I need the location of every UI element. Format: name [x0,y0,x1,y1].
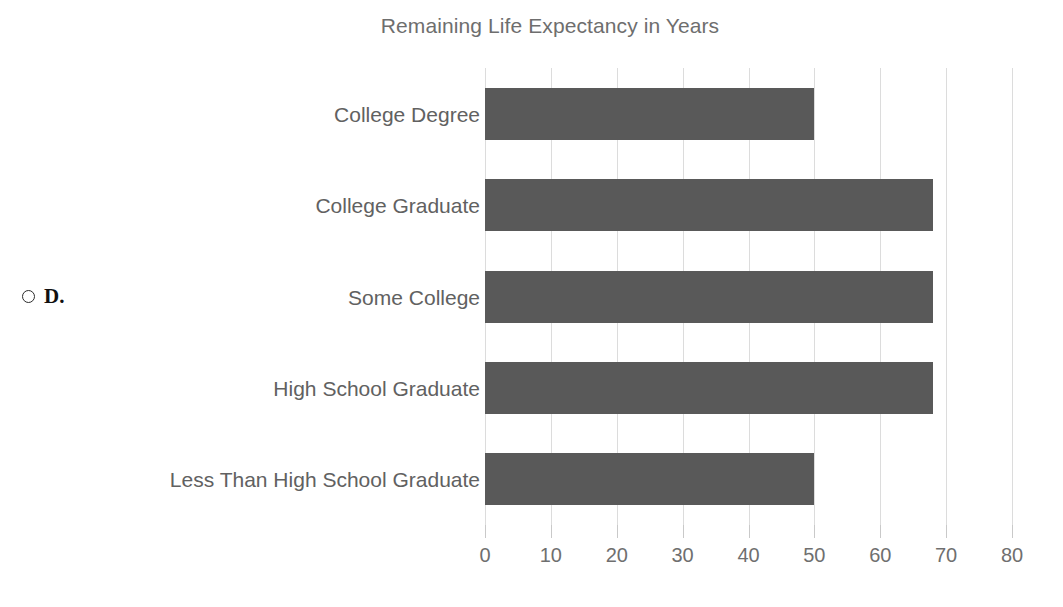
chart-title: Remaining Life Expectancy in Years [300,14,800,38]
x-tick-mark-0 [485,525,486,538]
x-tick-label: 50 [803,545,825,565]
x-tick-label: 40 [737,545,759,565]
bar [485,362,933,414]
gridline-80 [1012,68,1013,525]
radio-unselected-icon[interactable] [22,290,35,303]
x-tick-label: 0 [479,545,490,565]
x-tick-label: 20 [606,545,628,565]
quiz-option-d[interactable]: D. [22,286,64,307]
category-label: College Degree [334,103,480,124]
quiz-option-letter: D. [44,286,64,307]
bar [485,179,933,231]
x-tick-mark-20 [617,525,618,538]
x-tick-mark-60 [880,525,881,538]
plot-area [485,68,1012,525]
bar-chart: Remaining Life Expectancy in Years Colle… [0,0,1063,607]
x-tick-mark-40 [749,525,750,538]
x-tick-label: 30 [672,545,694,565]
x-tick-mark-50 [814,525,815,538]
category-label: Some College [348,286,480,307]
bar [485,88,814,140]
category-label: High School Graduate [273,377,480,398]
x-tick-label: 80 [1001,545,1023,565]
gridline-70 [946,68,947,525]
x-tick-label: 10 [540,545,562,565]
x-tick-mark-30 [683,525,684,538]
category-label: College Graduate [315,195,480,216]
category-label: Less Than High School Graduate [170,469,480,490]
x-tick-label: 70 [935,545,957,565]
x-tick-mark-80 [1012,525,1013,538]
x-tick-label: 60 [869,545,891,565]
bar [485,453,814,505]
x-tick-mark-70 [946,525,947,538]
bar [485,271,933,323]
x-tick-mark-10 [551,525,552,538]
